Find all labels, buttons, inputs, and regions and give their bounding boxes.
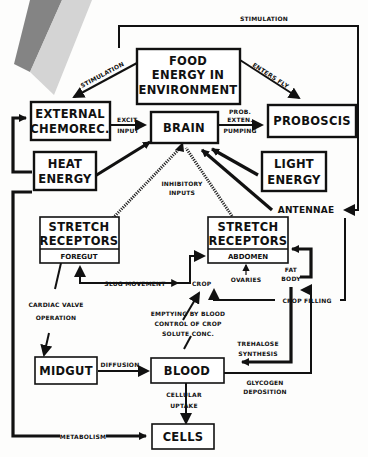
label-excit: EXCIT. bbox=[117, 116, 139, 123]
label-emptying: EMPTYING BY BLOOD bbox=[151, 310, 226, 317]
label-metabolism: METABOLISM bbox=[60, 433, 106, 440]
node-label: RECEPTORS bbox=[40, 234, 119, 248]
label-crop-filling: CROP FILLING bbox=[282, 297, 331, 304]
label-antennae: ANTENNAE bbox=[278, 205, 335, 215]
node-label: ENERGY bbox=[267, 173, 321, 187]
label-prob: PROB. bbox=[229, 108, 251, 115]
label-slug-movement: SLUG MOVEMENT bbox=[104, 280, 166, 287]
crop-filling-line bbox=[340, 218, 345, 300]
node-cells: CELLS bbox=[152, 424, 214, 449]
node-brain: BRAIN bbox=[151, 112, 218, 143]
label-cellular: CELLULAR bbox=[166, 391, 202, 398]
node-proboscis: PROBOSCIS bbox=[268, 105, 356, 137]
node-sublabel: ABDOMEN bbox=[228, 253, 268, 261]
node-label: RECEPTORS bbox=[209, 234, 288, 248]
label-pumping: PUMPING bbox=[223, 127, 256, 134]
diagram-canvas: FOOD ENERGY IN ENVIRONMENT EXTERNAL CHEM… bbox=[0, 0, 368, 457]
label-solute: SOLUTE CONC. bbox=[162, 330, 214, 337]
node-label: BRAIN bbox=[163, 121, 205, 135]
node-label: ENERGY IN bbox=[152, 68, 224, 82]
node-label: STRETCH bbox=[49, 220, 110, 234]
heat-to-chemorec-arrow bbox=[13, 118, 32, 172]
node-light-energy: LIGHT ENERGY bbox=[262, 152, 326, 191]
label-inhibitory: INHIBITORY bbox=[161, 180, 203, 187]
label-inputs: INPUTS bbox=[169, 189, 195, 196]
node-label: EXTERNAL bbox=[35, 107, 105, 121]
node-heat-energy: HEAT ENERGY bbox=[34, 152, 96, 190]
node-midgut: MIDGUT bbox=[35, 357, 97, 384]
label-fat: FAT bbox=[285, 266, 298, 273]
label-ovaries: OVARIES bbox=[231, 276, 262, 283]
blood-to-emptying-line bbox=[184, 336, 191, 349]
label-glycogen: GLYCOGEN bbox=[246, 379, 283, 386]
label-body: BODY bbox=[281, 275, 301, 282]
light-to-brain-arrow bbox=[212, 149, 258, 175]
node-label: LIGHT bbox=[274, 157, 314, 171]
node-stretch-receptors-abdomen: STRETCH RECEPTORS ABDOMEN bbox=[208, 217, 288, 263]
node-external-chemoreceptors: EXTERNAL CHEMOREC. bbox=[30, 102, 110, 140]
node-sublabel: FOREGUT bbox=[60, 253, 97, 261]
label-input: INPUT bbox=[117, 127, 139, 134]
node-label: CHEMOREC. bbox=[30, 122, 109, 136]
scan-artifact-stripe bbox=[14, 0, 92, 95]
cardiac-to-midgut-arrow bbox=[44, 333, 49, 355]
label-diffusion: DIFFUSION bbox=[101, 361, 140, 368]
node-label: ENVIRONMENT bbox=[139, 83, 238, 97]
node-label: STRETCH bbox=[218, 220, 279, 234]
node-label: FOOD bbox=[169, 54, 207, 68]
label-cardiac-valve: CARDIAC VALVE bbox=[28, 301, 83, 308]
label-exten: EXTEN. bbox=[227, 116, 252, 123]
slug-movement-to-abdomen-arrow bbox=[174, 256, 204, 283]
node-label: ENERGY bbox=[38, 172, 92, 186]
label-operation: OPERATION bbox=[36, 314, 77, 321]
crop-filling-to-crop-arrow bbox=[214, 290, 275, 300]
node-stretch-receptors-foregut: STRETCH RECEPTORS FOREGUT bbox=[40, 217, 119, 263]
node-blood: BLOOD bbox=[151, 358, 224, 383]
label-uptake: UPTAKE bbox=[170, 402, 198, 409]
label-stimulation-top: STIMULATION bbox=[240, 15, 288, 22]
node-food-energy: FOOD ENERGY IN ENVIRONMENT bbox=[137, 49, 240, 104]
food-to-proboscis-arrow bbox=[240, 60, 299, 98]
label-control: CONTROL OF CROP bbox=[154, 320, 221, 327]
heat-to-brain-arrow bbox=[95, 142, 150, 176]
label-trehalose: TREHALOSE bbox=[237, 340, 278, 347]
node-label: PROBOSCIS bbox=[273, 114, 351, 128]
node-label: BLOOD bbox=[164, 364, 210, 378]
label-enters-fly: ENTERS FLY bbox=[251, 61, 290, 90]
node-label: MIDGUT bbox=[39, 364, 93, 378]
label-stimulation-left: STIMULATION bbox=[79, 60, 125, 89]
feeding-regulation-diagram: FOOD ENERGY IN ENVIRONMENT EXTERNAL CHEM… bbox=[0, 0, 368, 457]
node-label: HEAT bbox=[48, 157, 83, 171]
node-label: CELLS bbox=[163, 430, 204, 444]
label-crop: CROP bbox=[192, 280, 212, 287]
label-deposition: DEPOSITION bbox=[243, 388, 287, 395]
label-synthesis: SYNTHESIS bbox=[238, 350, 278, 357]
foregut-to-cardiac-line bbox=[55, 263, 61, 289]
